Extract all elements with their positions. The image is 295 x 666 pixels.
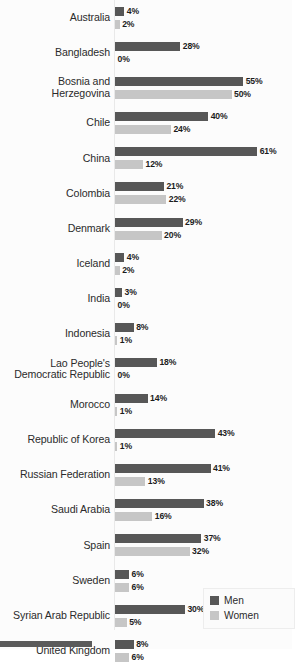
bar-value-men: 61% [260, 147, 277, 156]
bar-value-women: 50% [234, 90, 251, 99]
chart-row: Morocco14%1% [0, 387, 292, 422]
row-category-label: China [0, 153, 110, 165]
bar-value-men: 29% [185, 218, 202, 227]
row-category-label: Republic of Korea [0, 434, 110, 446]
bar-value-men: 18% [159, 358, 176, 367]
bar-men [115, 640, 134, 649]
bar-women [115, 512, 152, 521]
bar-group-women: 32% [115, 547, 209, 556]
bar-men [115, 288, 122, 297]
bar-group-women: 20% [115, 231, 181, 240]
bar-group-women: 50% [115, 90, 251, 99]
bar-value-men: 4% [127, 7, 139, 16]
row-bars: 61%12% [115, 141, 292, 176]
bar-group-women: 0% [115, 55, 130, 64]
bar-men [115, 218, 183, 227]
bar-value-men: 8% [136, 323, 148, 332]
bar-women [115, 231, 162, 240]
bar-value-men: 14% [150, 394, 167, 403]
bar-men [115, 77, 243, 86]
bar-group-women: 5% [115, 618, 141, 627]
bar-value-women: 0% [118, 301, 130, 310]
chart-row: United Kingdom8%6% [0, 633, 292, 666]
bar-value-men: 8% [136, 640, 148, 649]
row-category-label: Saudi Arabia [0, 504, 110, 516]
row-category-label: Bosnia and Herzegovina [0, 76, 110, 99]
bar-women [115, 618, 127, 627]
chart-row: India3%0% [0, 282, 292, 317]
chart-row: Chile40%24% [0, 106, 292, 141]
bar-men [115, 499, 204, 508]
bar-women [115, 442, 117, 451]
bar-group-men: 38% [115, 499, 223, 508]
row-bars: 40%24% [115, 106, 292, 141]
row-category-label: Colombia [0, 188, 110, 200]
legend-label-women: Women [224, 610, 259, 622]
row-bars: 18%0% [115, 352, 292, 387]
bar-value-women: 5% [129, 618, 141, 627]
legend-item-men: Men [210, 593, 290, 608]
bar-group-women: 12% [115, 160, 162, 169]
chart-row: Russian Federation41%13% [0, 457, 292, 492]
bar-group-men: 4% [115, 253, 139, 262]
row-category-label: Russian Federation [0, 469, 110, 481]
bar-men [115, 323, 134, 332]
bar-men [115, 7, 124, 16]
row-bars: 8%1% [115, 317, 292, 352]
bar-value-women: 0% [118, 55, 130, 64]
bar-group-men: 28% [115, 42, 200, 51]
bar-group-women: 6% [115, 653, 144, 662]
row-bars: 8%6% [115, 633, 292, 666]
bar-women [115, 477, 145, 486]
chart-row: Bosnia and Herzegovina55%50% [0, 70, 292, 105]
bar-value-women: 1% [120, 407, 132, 416]
bar-women [115, 336, 117, 345]
bar-value-men: 38% [206, 499, 223, 508]
chart-row: Spain37%32% [0, 528, 292, 563]
bar-men [115, 182, 164, 191]
legend-swatch-women-icon [210, 611, 219, 620]
row-bars: 29%20% [115, 211, 292, 246]
row-bars: 41%13% [115, 457, 292, 492]
bar-group-men: 40% [115, 112, 228, 121]
bar-value-women: 2% [122, 266, 134, 275]
bar-group-men: 6% [115, 570, 144, 579]
bar-group-men: 29% [115, 218, 202, 227]
bar-men [115, 112, 208, 121]
bar-group-women: 2% [115, 266, 134, 275]
bar-value-men: 6% [131, 570, 143, 579]
bar-women [115, 653, 129, 662]
bar-women [115, 583, 129, 592]
bar-value-women: 22% [169, 195, 186, 204]
bar-value-women: 0% [118, 371, 130, 380]
bar-women [115, 90, 232, 99]
bar-men [115, 605, 185, 614]
bar-group-men: 14% [115, 394, 167, 403]
bar-value-men: 40% [211, 112, 228, 121]
bar-women [115, 195, 166, 204]
row-category-label: Morocco [0, 399, 110, 411]
row-bars: 43%1% [115, 422, 292, 457]
row-category-label: Denmark [0, 223, 110, 235]
row-category-label: Indonesia [0, 328, 110, 340]
bar-value-women: 6% [131, 583, 143, 592]
row-category-label: Iceland [0, 258, 110, 270]
row-bars: 21%22% [115, 176, 292, 211]
bar-value-men: 4% [127, 253, 139, 262]
bar-value-men: 30% [187, 605, 204, 614]
row-bars: 37%32% [115, 528, 292, 563]
row-bars: 14%1% [115, 387, 292, 422]
chart-row: Colombia21%22% [0, 176, 292, 211]
row-bars: 4%2% [115, 0, 292, 35]
bar-group-women: 6% [115, 583, 144, 592]
legend-item-women: Women [210, 608, 290, 623]
bar-women [115, 407, 117, 416]
bar-value-women: 24% [173, 125, 190, 134]
bar-group-men: 30% [115, 605, 204, 614]
bar-group-men: 61% [115, 147, 277, 156]
bar-men [115, 253, 124, 262]
chart-rows: Australia4%2%Bangladesh28%0%Bosnia and H… [0, 0, 292, 666]
row-bars: 3%0% [115, 282, 292, 317]
bar-men [115, 147, 257, 156]
bar-group-men: 8% [115, 323, 148, 332]
